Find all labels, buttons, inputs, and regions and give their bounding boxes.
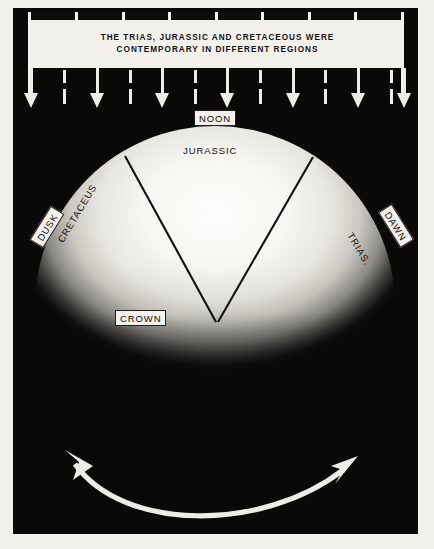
figure-root: THE TRIAS, JURASSIC AND CRETACEOUS WERE … [0, 0, 434, 549]
caption-line-2: CONTEMPORARY IN DIFFERENT REGIONS [117, 44, 319, 56]
boxed-label-noon: NOON [194, 110, 236, 126]
tick-dash-mark [390, 70, 393, 104]
down-arrow-icon [292, 68, 295, 108]
ruler-tick-gap [354, 12, 357, 20]
caption-banner: THE TRIAS, JURASSIC AND CRETACEOUS WERE … [31, 20, 404, 68]
down-arrow-icon [161, 68, 164, 108]
tick-dash-mark [129, 70, 132, 104]
caption-line-1: THE TRIAS, JURASSIC AND CRETACEOUS WERE [101, 32, 335, 44]
down-arrow-icon [357, 68, 360, 108]
top-ruler-bar [31, 12, 404, 20]
tick-arrow-zone [13, 68, 418, 108]
ruler-tick-gap [122, 12, 125, 20]
tick-dash-mark [194, 70, 197, 104]
down-arrow-icon [30, 68, 33, 108]
ruler-tick-gap [261, 12, 264, 20]
tick-dash-mark [324, 70, 327, 104]
down-arrow-icon [96, 68, 99, 108]
tick-dash-mark [63, 70, 66, 104]
ruler-tick-gap [168, 12, 171, 20]
ruler-tick-gap [308, 12, 311, 20]
dome-graphic [13, 108, 418, 428]
ruler-tick-gap [215, 12, 218, 20]
tick-dash-mark [259, 70, 262, 104]
down-arrow-icon [226, 68, 229, 108]
down-arrow-icon [403, 68, 406, 108]
ruler-tick-gap [75, 12, 78, 20]
boxed-label-crown: CROWN [115, 310, 166, 326]
dome-label-jurassic: JURASSIC [183, 145, 237, 156]
dome-sphere [35, 126, 395, 428]
